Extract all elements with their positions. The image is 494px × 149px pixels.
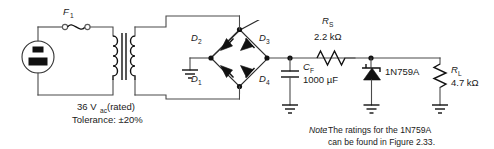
transformer-secondary-coil	[131, 36, 136, 80]
fuse-label-letter: F	[63, 6, 70, 17]
zener-diode-1n759a: 1N759A	[362, 55, 420, 105]
diode-d3-label: D	[259, 32, 266, 43]
resistor-rs-value: 2.2 kΩ	[314, 31, 342, 42]
ground-capacitor	[282, 105, 298, 113]
circuit-diagram-figure: F 1 36 V ac (rated) Tolerance: ±20%	[0, 0, 494, 149]
bridge-node-right	[264, 55, 269, 60]
capacitor-value: 1000 µF	[303, 74, 338, 85]
wire-fuse-to-primary	[90, 27, 113, 36]
resistor-rl-value: 4.7 kΩ	[451, 77, 479, 88]
diode-d3-subscript: 3	[266, 38, 270, 45]
resistor-rs-label-subscript: S	[329, 21, 334, 28]
diode-d1-subscript: 1	[198, 79, 202, 86]
resistor-rs-label-letter: R	[322, 15, 329, 26]
transformer-tolerance: Tolerance: ±20%	[72, 114, 143, 125]
diode-d1: D 1	[191, 66, 234, 87]
transformer-rating-rated: (rated)	[107, 101, 135, 112]
source-outline-circle	[22, 41, 54, 73]
bridge-branch-d2	[211, 16, 266, 58]
ac-wall-outlet-source	[22, 27, 54, 95]
bridge-node-left	[208, 55, 213, 60]
wire-source-to-primary-bottom	[38, 80, 113, 95]
transformer-rating-voltage: 36 V	[77, 101, 97, 112]
zener-anode-triangle	[364, 68, 381, 80]
zener-label: 1N759A	[385, 66, 420, 77]
ground-load	[432, 105, 448, 113]
diode-d2-label: D	[191, 32, 198, 43]
diode-d1-triangle	[221, 66, 233, 78]
diode-d4: D 4	[241, 66, 271, 87]
outlet-slot-upper	[33, 47, 44, 53]
fuse-terminal-right	[85, 24, 90, 29]
resistor-rl: R L 4.7 kΩ	[434, 58, 479, 105]
diode-d4-subscript: 4	[266, 79, 270, 86]
resistor-rl-zigzag	[434, 64, 446, 88]
note-line1: The ratings for the 1N759A	[328, 125, 431, 135]
outlet-slot-lower	[29, 58, 48, 66]
diode-d1-label: D	[191, 73, 198, 84]
transformer	[113, 27, 135, 95]
capacitor-label-letter: C	[303, 61, 310, 72]
fuse-f1: F 1	[62, 6, 90, 30]
capacitor-label-subscript: F	[310, 67, 314, 74]
fuse-terminal-left	[62, 24, 67, 29]
diode-d2-triangle	[221, 39, 233, 51]
fuse-label-subscript: 1	[70, 12, 74, 19]
resistor-rl-label-letter: R	[451, 64, 458, 75]
mask-top-rail	[240, 10, 270, 20]
diode-d2-subscript: 2	[198, 38, 202, 45]
capacitor-cf: C F 1000 µF	[281, 55, 338, 105]
fuse-wire-curve	[68, 25, 85, 29]
diode-d2: D 2	[191, 32, 234, 51]
figure-note: Note : The ratings for the 1N759A can be…	[309, 125, 435, 147]
ground-zener	[364, 105, 380, 113]
mask-bottom-rail	[240, 94, 270, 104]
diode-d4-label: D	[259, 73, 266, 84]
transformer-rating-label: 36 V ac (rated) Tolerance: ±20%	[72, 101, 143, 125]
circuit-schematic-canvas: F 1 36 V ac (rated) Tolerance: ±20%	[0, 0, 494, 149]
note-line2: can be found in Figure 2.33.	[328, 137, 435, 147]
transformer-primary-coil	[113, 36, 118, 80]
resistor-rl-label-subscript: L	[458, 70, 462, 77]
